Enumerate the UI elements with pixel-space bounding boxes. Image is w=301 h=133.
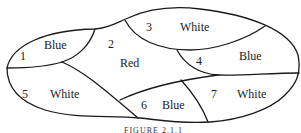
region-map-figure: 1 Blue 2 Red 3 White 4 Blue 5 White 6 Bl… bbox=[0, 0, 301, 133]
region-5-color: White bbox=[50, 88, 79, 100]
region-3-color: White bbox=[180, 21, 209, 33]
region-2-color: Red bbox=[120, 57, 139, 69]
boundary-2-6 bbox=[120, 75, 218, 100]
region-6-number: 6 bbox=[141, 99, 147, 111]
region-5-number: 5 bbox=[22, 88, 28, 100]
region-1-color: Blue bbox=[44, 39, 67, 51]
region-4-number: 4 bbox=[196, 55, 202, 67]
figure-caption: FIGURE 2.1.1 bbox=[124, 126, 183, 133]
boundary-6-7 bbox=[181, 80, 208, 122]
region-2-number: 2 bbox=[108, 38, 114, 50]
region-7-number: 7 bbox=[211, 88, 217, 100]
boundary-1-5 bbox=[7, 62, 62, 68]
region-3-number: 3 bbox=[146, 21, 152, 33]
region-7-color: White bbox=[237, 88, 266, 100]
region-6-color: Blue bbox=[162, 99, 185, 111]
region-1-number: 1 bbox=[20, 50, 26, 62]
region-4-color: Blue bbox=[239, 50, 262, 62]
boundary-1-2 bbox=[62, 29, 95, 62]
